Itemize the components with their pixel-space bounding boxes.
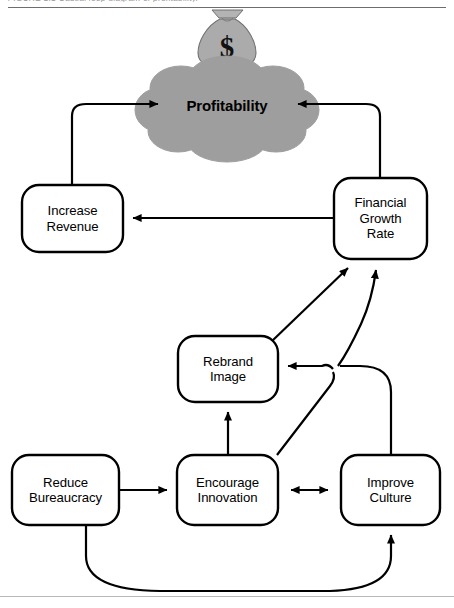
node-financial-growth-rate[interactable]	[334, 178, 427, 259]
edge-improve-culture-to-rebrand-image	[340, 366, 391, 455]
node-reduce-bureaucracy[interactable]	[12, 455, 119, 525]
figure-page: FIGURE 1.1 Causal loop diagram of profit…	[0, 0, 454, 608]
edge-improve-culture-to-rebrand-image-hop	[288, 365, 333, 369]
edge-reduce-bureaucracy-to-improve-culture	[86, 525, 391, 591]
node-increase-revenue[interactable]	[22, 185, 123, 252]
edge-encourage-innovation-to-financial-growth	[277, 372, 334, 455]
node-rebrand-image[interactable]	[178, 336, 278, 402]
profitability-label: Profitability	[167, 92, 287, 118]
edge-rebrand-image-to-financial-growth	[272, 268, 348, 341]
profitability-text: Profitability	[186, 97, 267, 114]
node-encourage-innovation[interactable]	[177, 455, 278, 525]
edge-encourage-innovation-to-financial-growth-upper	[338, 270, 376, 366]
node-improve-culture[interactable]	[341, 455, 440, 525]
